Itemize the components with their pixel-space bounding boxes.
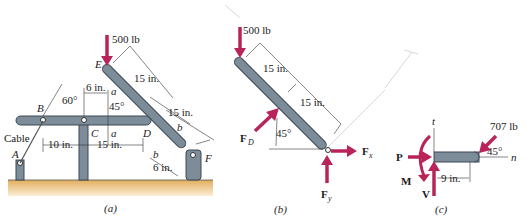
caption-b: (b) <box>274 203 287 216</box>
svg-text:E: E <box>94 58 102 70</box>
svg-text:F: F <box>362 145 369 157</box>
svg-text:15 in.: 15 in. <box>134 72 159 84</box>
ground <box>8 180 213 196</box>
panel-c: t n 707 lb 45° P M V 9 in. (c) <box>385 50 518 216</box>
svg-text:Cable: Cable <box>4 132 30 144</box>
svg-text:45°: 45° <box>276 127 291 139</box>
force-fx-arrow-icon <box>347 145 357 157</box>
svg-text:707 lb: 707 lb <box>490 120 518 132</box>
svg-text:B: B <box>37 102 44 114</box>
svg-text:45°: 45° <box>109 100 124 112</box>
panel-b: 500 lb 15 in. 15 in. F D 45° F x F y (b) <box>225 5 385 216</box>
svg-text:D: D <box>247 138 254 147</box>
svg-text:P: P <box>396 151 403 163</box>
svg-text:6 in.: 6 in. <box>86 81 106 93</box>
force-fy-arrow-icon <box>321 155 333 165</box>
svg-text:15 in.: 15 in. <box>97 138 122 150</box>
svg-text:45°: 45° <box>487 145 502 157</box>
svg-text:y: y <box>327 194 332 203</box>
svg-text:b: b <box>153 148 159 160</box>
diagram-canvas: 500 lb 15 in. 15 in. 6 in. a a b b A B C… <box>0 0 527 224</box>
svg-text:F: F <box>204 152 212 164</box>
load-label-a: 500 lb <box>112 33 140 45</box>
svg-text:15 in.: 15 in. <box>168 106 193 118</box>
post-c <box>79 122 88 180</box>
panel-a: 500 lb 15 in. 15 in. 6 in. a a b b A B C… <box>4 33 214 215</box>
moment-m-arrow-icon <box>418 174 430 182</box>
svg-text:x: x <box>368 151 373 160</box>
svg-text:60°: 60° <box>62 94 77 106</box>
svg-text:6 in.: 6 in. <box>153 161 173 173</box>
caption-a: (a) <box>104 202 117 215</box>
svg-text:F: F <box>321 188 328 200</box>
svg-text:a: a <box>111 85 117 97</box>
svg-text:9 in.: 9 in. <box>441 172 461 184</box>
svg-text:A: A <box>11 148 19 160</box>
figure: 500 lb 15 in. 15 in. 6 in. a a b b A B C… <box>0 0 527 224</box>
svg-text:F: F <box>240 132 247 144</box>
svg-text:t: t <box>432 115 436 127</box>
svg-text:15 in.: 15 in. <box>300 96 325 108</box>
caption-c: (c) <box>435 203 448 216</box>
svg-text:10 in.: 10 in. <box>48 138 73 150</box>
member-segment <box>434 152 479 162</box>
force-p-arrow-icon <box>422 151 432 163</box>
load-arrow-icon <box>234 48 246 58</box>
svg-text:V: V <box>422 188 430 200</box>
svg-text:n: n <box>511 151 517 163</box>
svg-text:15 in.: 15 in. <box>263 62 288 74</box>
svg-text:500 lb: 500 lb <box>243 24 271 36</box>
svg-text:M: M <box>401 175 412 187</box>
svg-text:D: D <box>142 127 151 139</box>
load-arrow-icon <box>101 56 113 66</box>
svg-text:b: b <box>177 121 183 133</box>
